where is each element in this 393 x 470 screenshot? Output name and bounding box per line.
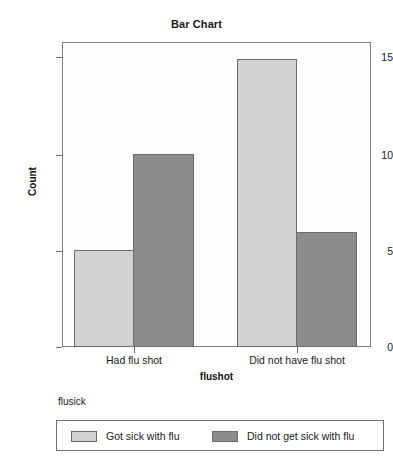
legend-swatch-light-icon: [71, 431, 97, 442]
legend-box: Got sick with flu Did not get sick with …: [56, 420, 384, 451]
y-tick-mark-0: [56, 347, 62, 348]
bar-had-flushot-got-sick[interactable]: [74, 250, 134, 347]
legend-label-not-sick: Did not get sick with flu: [247, 430, 354, 442]
legend-title: flusick: [58, 396, 86, 407]
x-category-label-had-flushot: Had flu shot: [74, 353, 194, 367]
bar-had-flushot-not-sick[interactable]: [133, 154, 194, 347]
y-axis-title: Count: [27, 142, 38, 222]
legend-entry-got-sick[interactable]: Got sick with flu: [71, 428, 180, 444]
chart-title: Bar Chart: [0, 18, 393, 30]
legend-swatch-dark-icon: [212, 431, 238, 442]
legend-entry-not-sick[interactable]: Did not get sick with flu: [212, 428, 354, 444]
bar-no-flushot-got-sick[interactable]: [237, 59, 297, 347]
x-axis-title: flushot: [62, 371, 371, 382]
bar-no-flushot-not-sick[interactable]: [296, 232, 357, 347]
bar-chart-figure: Bar Chart Count 15 10 5 0 Had flu shot D…: [0, 0, 393, 470]
x-category-label-no-flushot: Did not have flu shot: [227, 353, 367, 367]
legend-label-got-sick: Got sick with flu: [106, 430, 180, 442]
bars-container: [62, 42, 371, 347]
